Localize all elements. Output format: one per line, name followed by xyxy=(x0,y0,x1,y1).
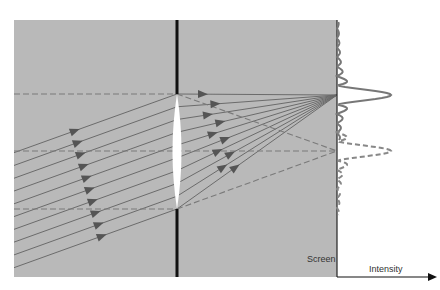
aperture-bottom xyxy=(176,209,179,277)
screen-label: Screen xyxy=(307,254,336,264)
aperture-top xyxy=(176,20,179,94)
optics-diagram: Screen Intensity xyxy=(0,0,440,290)
intensity-label: Intensity xyxy=(369,264,403,274)
intensity-curve-dashed xyxy=(337,131,391,215)
intensity-axis-arrowhead xyxy=(428,273,437,281)
intensity-curve-solid xyxy=(337,22,391,140)
